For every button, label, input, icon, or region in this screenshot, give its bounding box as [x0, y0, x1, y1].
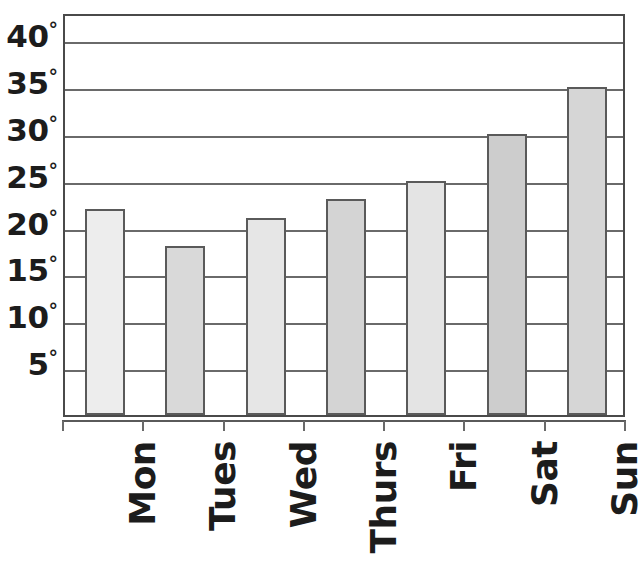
x-label-fri: Fri — [444, 441, 484, 561]
x-tick-7 — [624, 421, 626, 431]
y-tick-label-25: 25° — [6, 161, 58, 193]
degree-symbol: ° — [49, 252, 59, 274]
y-tick-label-40: 40° — [6, 20, 58, 52]
y-tick-label-35: 35° — [6, 67, 58, 99]
degree-symbol: ° — [49, 346, 59, 368]
x-tick-6 — [544, 421, 546, 431]
degree-symbol: ° — [49, 159, 59, 181]
degree-symbol: ° — [49, 206, 59, 228]
degree-symbol: ° — [49, 299, 59, 321]
y-tick-label-5: 5° — [27, 348, 58, 380]
x-tick-5 — [463, 421, 465, 431]
x-label-tues: Tues — [203, 441, 243, 561]
plot-area — [63, 14, 625, 417]
x-label-thurs: Thurs — [364, 441, 404, 561]
bar-wed[interactable] — [246, 218, 286, 415]
gridline-30 — [65, 136, 623, 138]
gridline-35 — [65, 89, 623, 91]
degree-symbol: ° — [49, 18, 59, 40]
x-label-mon: Mon — [123, 441, 163, 561]
y-tick-label-10: 10° — [6, 301, 58, 333]
x-label-wed: Wed — [284, 441, 324, 561]
bar-sun[interactable] — [567, 87, 607, 415]
x-tick-1 — [142, 421, 144, 431]
gridline-40 — [65, 42, 623, 44]
x-label-sat: Sat — [525, 441, 565, 561]
x-axis-line — [62, 420, 626, 422]
y-tick-label-20: 20° — [6, 208, 58, 240]
x-tick-3 — [303, 421, 305, 431]
bar-sat[interactable] — [487, 134, 527, 415]
x-tick-0 — [62, 421, 64, 431]
gridline-25 — [65, 183, 623, 185]
y-tick-label-15: 15° — [6, 254, 58, 286]
degree-symbol: ° — [49, 112, 59, 134]
bar-mon[interactable] — [85, 209, 125, 415]
bar-fri[interactable] — [406, 181, 446, 415]
degree-symbol: ° — [49, 65, 59, 87]
bar-tues[interactable] — [165, 246, 205, 415]
bar-thurs[interactable] — [326, 199, 366, 415]
y-tick-label-30: 30° — [6, 114, 58, 146]
x-label-sun: Sun — [605, 441, 643, 561]
x-tick-2 — [223, 421, 225, 431]
x-tick-4 — [383, 421, 385, 431]
